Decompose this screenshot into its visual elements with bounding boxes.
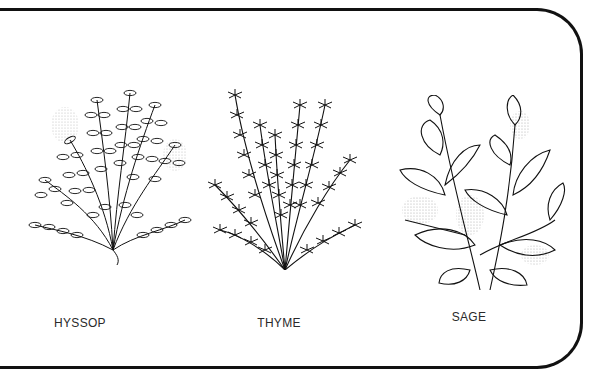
thyme-illustration [205, 85, 370, 270]
plant-label-thyme: THYME [257, 316, 301, 330]
plant-label-hyssop: HYSSOP [54, 316, 106, 330]
hyssop-illustration [25, 85, 200, 265]
plant-label-sage: SAGE [452, 310, 487, 324]
sage-illustration [395, 95, 570, 295]
